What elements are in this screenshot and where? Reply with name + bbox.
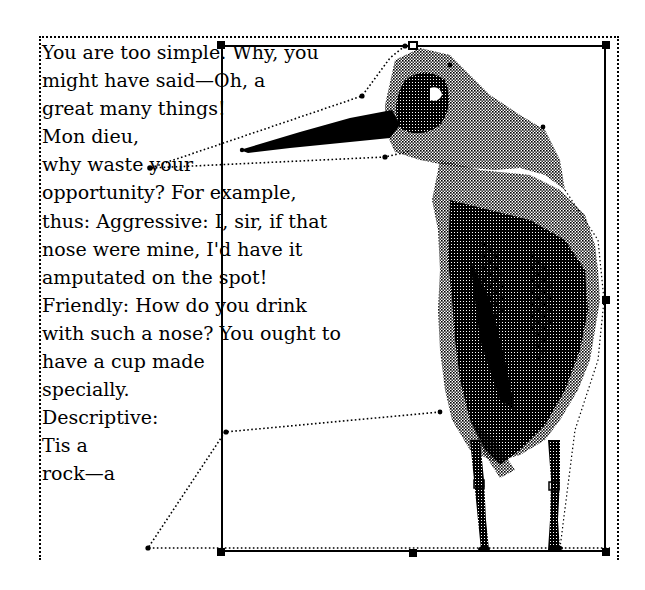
text-line: Descriptive:: [42, 403, 442, 431]
text-line: Friendly: How do you drink: [42, 291, 442, 319]
text-line: with such a nose? You ought to: [42, 319, 442, 347]
page-canvas: You are too simple. Why, you might have …: [0, 0, 645, 590]
text-line: Tis a: [42, 431, 442, 459]
resize-handle-bottom-middle[interactable]: [409, 549, 417, 557]
resize-handle-top-right[interactable]: [602, 41, 610, 49]
resize-handle-top-left[interactable]: [217, 41, 225, 49]
heron-leg-right: [548, 440, 560, 550]
text-line: have a cup made: [42, 347, 442, 375]
text-line: why waste your: [42, 150, 442, 178]
resize-handle-bottom-right[interactable]: [602, 548, 610, 556]
text-line: specially.: [42, 375, 442, 403]
resize-handle-middle-right[interactable]: [602, 296, 610, 304]
resize-handle-top-middle[interactable]: [408, 41, 418, 50]
text-block[interactable]: You are too simple. Why, you might have …: [42, 38, 442, 488]
text-line: might have said—Oh, a: [42, 66, 442, 94]
text-line: thus: Aggressive: I, sir, if that: [42, 207, 442, 235]
text-line: opportunity? For example,: [42, 178, 442, 206]
resize-handle-bottom-left[interactable]: [217, 548, 225, 556]
text-line: Mon dieu,: [42, 122, 442, 150]
text-line: nose were mine, I'd have it: [42, 235, 442, 263]
text-line: great many things!: [42, 94, 442, 122]
text-line: amputated on the spot!: [42, 263, 442, 291]
text-line: rock—a: [42, 459, 442, 487]
text-line: You are too simple. Why, you: [42, 38, 442, 66]
